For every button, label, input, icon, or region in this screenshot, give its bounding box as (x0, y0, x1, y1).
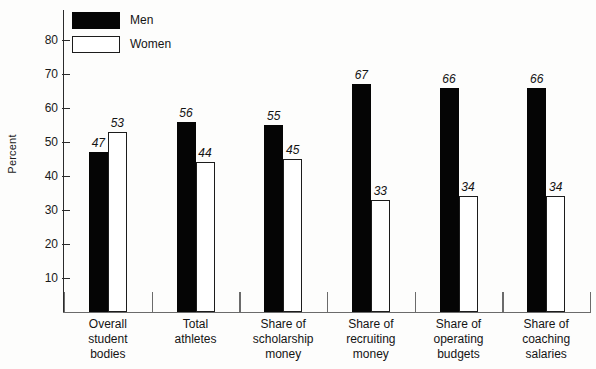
y-axis-tick-mark (62, 244, 70, 245)
bar-value-label: 34 (541, 181, 571, 194)
y-axis-label: Percent (6, 124, 18, 184)
category-label: Share of recruiting money (326, 317, 416, 362)
bar-value-label: 33 (365, 185, 395, 198)
y-axis-tick-label: 70 (45, 67, 58, 81)
bar-value-label: 66 (522, 73, 552, 86)
y-axis-tick-label: 40 (45, 169, 58, 183)
y-axis-tick: 80 (22, 33, 70, 47)
bar-value-label: 67 (346, 69, 376, 82)
y-axis-tick-label: 10 (45, 271, 58, 285)
bar-value-label: 66 (434, 73, 464, 86)
bar-chart: Percent 1020304050607080 475356445545673… (0, 0, 596, 369)
group-separator-tick (327, 292, 328, 313)
legend-swatch-women (72, 36, 120, 53)
bar-value-label: 55 (259, 110, 289, 123)
legend-swatch-men (72, 12, 120, 29)
category-label: Overall student bodies (63, 317, 153, 362)
y-axis-tick: 60 (22, 101, 70, 115)
group-separator-tick (415, 292, 416, 313)
y-axis-tick: 10 (22, 271, 70, 285)
category-label: Share of scholarship money (238, 317, 328, 362)
group-separator-tick (239, 292, 240, 313)
y-axis-tick: 40 (22, 169, 70, 183)
bar-women (108, 132, 127, 312)
bar-men (440, 88, 459, 312)
y-axis-tick-mark (62, 278, 70, 279)
group-separator-tick (502, 292, 503, 313)
bar-value-label: 56 (171, 107, 201, 120)
bar-women (546, 196, 565, 312)
bar-value-label: 34 (453, 181, 483, 194)
bar-men (352, 84, 371, 312)
bar-value-label: 45 (278, 144, 308, 157)
category-label: Share of operating budgets (414, 317, 504, 362)
legend-label-women: Women (130, 37, 171, 52)
legend-label-men: Men (130, 13, 153, 28)
category-label: Share of coaching salaries (501, 317, 591, 362)
y-axis-tick: 50 (22, 135, 70, 149)
bar-men (89, 152, 108, 312)
group-separator-tick (590, 292, 591, 313)
bar-women (371, 200, 390, 312)
bar-value-label: 44 (190, 147, 220, 160)
category-label: Total athletes (151, 317, 241, 347)
y-axis-tick: 70 (22, 67, 70, 81)
y-axis-tick-mark (62, 142, 70, 143)
y-axis-tick-label: 50 (45, 135, 58, 149)
y-axis-tick-mark (62, 176, 70, 177)
bar-women (196, 162, 215, 312)
y-axis-tick-label: 20 (45, 237, 58, 251)
y-axis-tick-label: 30 (45, 203, 58, 217)
bar-value-label: 53 (102, 117, 132, 130)
y-axis-tick: 30 (22, 203, 70, 217)
bar-women (459, 196, 478, 312)
y-axis-tick-label: 80 (45, 33, 58, 47)
y-axis-tick-mark (62, 210, 70, 211)
y-axis-tick-mark (62, 40, 70, 41)
bar-men (527, 88, 546, 312)
group-separator-tick (64, 292, 65, 313)
bar-women (283, 159, 302, 312)
y-axis-tick-mark (62, 74, 70, 75)
y-axis-line (63, 10, 64, 313)
y-axis-tick-mark (62, 108, 70, 109)
group-separator-tick (152, 292, 153, 313)
y-axis-tick: 20 (22, 237, 70, 251)
y-axis-tick-label: 60 (45, 101, 58, 115)
